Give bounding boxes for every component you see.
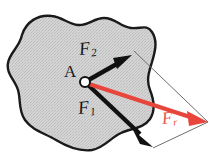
point-a-marker: [80, 77, 90, 87]
construction-line-from-f1-tip: [153, 122, 208, 148]
label-force-fr-subscript: r: [173, 117, 178, 128]
force-diagram-figure: A F2 F1 Fr: [0, 0, 214, 153]
label-point-a: A: [64, 63, 76, 80]
diagram-canvas: [0, 0, 214, 153]
label-force-fr: Fr: [161, 108, 177, 126]
label-force-f2: F2: [78, 38, 97, 58]
label-force-f1: F1: [77, 97, 96, 117]
